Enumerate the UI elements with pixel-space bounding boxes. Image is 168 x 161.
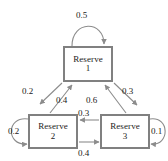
node-reserve-2-index: 2 [51,132,56,141]
node-reserve-1[interactable]: Reserve 1 [63,46,113,82]
edge-label-3-to-3: 0.1 [151,126,162,136]
edge-label-1-to-3: 0.3 [122,86,133,96]
node-reserve-1-index: 1 [86,64,91,73]
edge-label-1-to-2: 0.2 [22,86,33,96]
edge-1-to-1 [72,26,104,46]
diagram-canvas: Reserve 1 Reserve 2 Reserve 3 0.5 0.2 0.… [0,0,168,161]
node-reserve-3[interactable]: Reserve 3 [100,114,150,149]
node-reserve-3-index: 3 [123,132,128,141]
edge-label-3-to-1: 0.6 [86,95,97,105]
edge-label-2-to-3: 0.4 [78,148,89,158]
edge-label-1-to-1: 0.5 [76,10,87,20]
edge-label-2-to-1: 0.4 [56,95,67,105]
edge-label-2-to-2: 0.2 [8,126,19,136]
node-reserve-2[interactable]: Reserve 2 [28,114,78,149]
edge-label-3-to-2: 0.3 [78,108,89,118]
